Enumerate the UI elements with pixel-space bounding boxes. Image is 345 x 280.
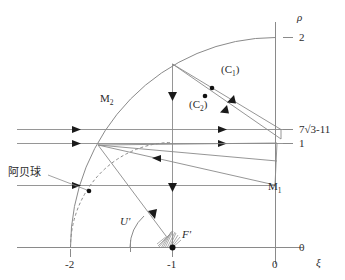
xi-tick-label-minus2: -2 <box>65 258 74 270</box>
arrowhead-upper-left <box>72 126 81 133</box>
xi-axis-label: ξ <box>316 256 321 269</box>
arrowhead-axial-upper <box>168 92 177 101</box>
arrowhead-C1-inward <box>227 95 236 104</box>
arrowhead-axial-lower <box>168 183 177 192</box>
curve-C1-close: ) <box>236 63 240 76</box>
ray-lower-mid <box>98 145 277 161</box>
mirror-M2-subscript: 2 <box>110 98 114 107</box>
mirror-M1-label: M1 <box>268 180 282 195</box>
rho-tick-label-2: 2 <box>299 31 305 43</box>
curve-C2-open: (C <box>189 98 200 111</box>
angle-U-prime-label: U' <box>120 215 131 227</box>
mirror-arc-M2 <box>71 38 276 248</box>
optics-ray-diagram-figure: ρ ξ 2 7√3-11 1 0 -2 -1 0 M2 M1 (C1) (C2)… <box>0 0 345 280</box>
incoming-rays-group <box>17 126 283 189</box>
abbe-leader-group <box>48 175 91 193</box>
xi-tick-label-0: 0 <box>272 258 278 270</box>
curve-C2-label: (C2) <box>189 98 208 113</box>
rho-axis-ticks <box>283 38 293 144</box>
curve-C1-label: (C1) <box>221 63 240 78</box>
abbe-leader-line <box>48 175 87 190</box>
abbe-point-marker <box>87 189 92 194</box>
rho-tick-label-0: 0 <box>299 241 305 253</box>
focus-F-prime-label: F' <box>181 228 192 240</box>
abbe-sphere-label: 阿贝球 <box>8 165 41 179</box>
focus-point-F-prime <box>170 245 176 251</box>
marginal-ray-group <box>98 145 166 252</box>
arrowhead-middle-left <box>72 140 81 147</box>
curve-C1-open: (C <box>221 63 232 76</box>
diagram-canvas: ρ ξ 2 7√3-11 1 0 -2 -1 0 M2 M1 (C1) (C2)… <box>0 0 345 280</box>
arrowhead-upper-right <box>218 126 227 133</box>
mirror-M2-label: M2 <box>100 92 114 107</box>
point-marker-C1 <box>210 86 215 91</box>
angle-arc-U-prime <box>130 216 144 247</box>
rho-tick-label-7sqrt3-11: 7√3-11 <box>299 123 330 135</box>
axial-ray-group <box>168 64 177 247</box>
rho-tick-label-1: 1 <box>299 137 305 149</box>
rho-axis-label: ρ <box>296 11 302 23</box>
curve-C2-close: ) <box>204 98 208 111</box>
arrowhead-lower-left <box>72 182 81 189</box>
xi-tick-label-minus1: -1 <box>167 258 176 270</box>
arrowhead-C2-inward <box>220 105 229 114</box>
lower-reflected-rays <box>98 143 277 185</box>
mirror-M1-letter: M <box>268 180 278 192</box>
mirror-M2-letter: M <box>100 92 110 104</box>
ray-lower-lower-edge <box>98 145 275 185</box>
arrowhead-lower-leftward <box>152 155 161 162</box>
mirror-M1-subscript: 1 <box>278 186 282 195</box>
focus-hatching-group <box>157 231 181 248</box>
